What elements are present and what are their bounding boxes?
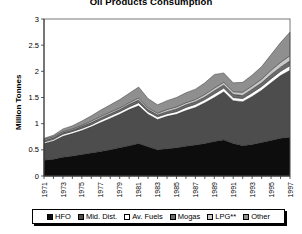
legend-swatch-icon: [207, 214, 213, 220]
x-tick-label: 1977: [97, 182, 104, 198]
y-tick-label: 2: [35, 67, 39, 76]
legend-item: Av. Fuels: [124, 212, 163, 221]
x-tick-label: 1991: [230, 182, 237, 198]
legend-label: LPG**: [215, 212, 236, 221]
x-tick-label: 1995: [268, 182, 275, 198]
legend-label: Av. Fuels: [132, 212, 163, 221]
legend-swatch-icon: [124, 214, 130, 220]
legend-swatch-icon: [47, 214, 53, 220]
x-tick-label: 1985: [173, 182, 180, 198]
x-tick-label: 1979: [116, 182, 123, 198]
y-tick-label: 2.5: [29, 41, 39, 50]
x-tick-label: 1983: [154, 182, 161, 198]
y-tick-label: 0.5: [29, 145, 39, 154]
legend-item: HFO: [47, 212, 71, 221]
y-tick-label: 3: [35, 15, 39, 24]
x-tick-label: 1989: [211, 182, 218, 198]
legend-item: LPG**: [207, 212, 236, 221]
x-tick-label: 1997: [287, 182, 294, 198]
x-tick-label: 1987: [192, 182, 199, 198]
y-tick-label: 1: [35, 119, 39, 128]
legend-item: Mogas: [170, 212, 201, 221]
stacked-area-plot: 00.511.522.53197119731975197719791981198…: [0, 0, 302, 234]
x-tick-label: 1981: [135, 182, 142, 198]
legend-swatch-icon: [243, 214, 249, 220]
legend-swatch-icon: [78, 214, 84, 220]
legend-label: HFO: [55, 212, 71, 221]
legend-label: Other: [251, 212, 270, 221]
legend-label: Mid. Dist.: [86, 212, 117, 221]
y-tick-label: 0: [35, 172, 39, 181]
y-tick-label: 1.5: [29, 93, 39, 102]
legend-item: Mid. Dist.: [78, 212, 117, 221]
x-tick-label: 1993: [249, 182, 256, 198]
x-tick-label: 1975: [78, 182, 85, 198]
legend-label: Mogas: [178, 212, 201, 221]
chart-legend: HFOMid. Dist.Av. FuelsMogasLPG**Other: [32, 209, 285, 224]
x-tick-label: 1971: [41, 182, 48, 198]
legend-swatch-icon: [170, 214, 176, 220]
x-tick-label: 1973: [60, 182, 67, 198]
legend-item: Other: [243, 212, 270, 221]
chart-container: Oil Products Consumption Million Tonnes …: [0, 0, 302, 234]
